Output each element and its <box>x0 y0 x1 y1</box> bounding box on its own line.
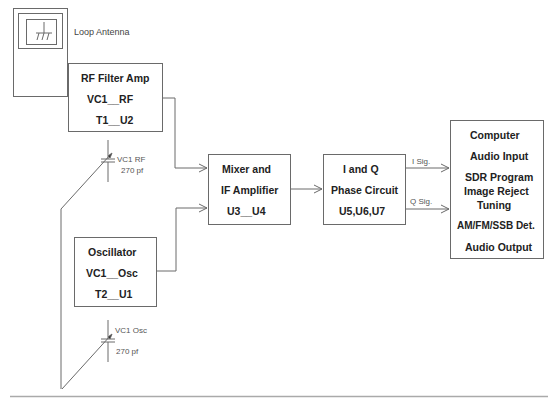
osc-cap: VC1__Osc <box>86 267 138 279</box>
computer-detector: AM/FM/SSB Det. <box>457 220 535 231</box>
rf-filter-amp-block: RF Filter Amp VC1__RF T1__U2 <box>68 63 163 132</box>
rf-amp-cap: VC1__RF <box>87 93 133 105</box>
i-signal-label: I Sig. <box>412 157 430 166</box>
oscillator-block: Oscillator VC1__Osc T2__U1 <box>74 237 157 307</box>
osc-parts: T2__U1 <box>95 288 132 300</box>
q-signal-label: Q Sig. <box>410 197 432 206</box>
computer-audio-output: Audio Output <box>465 241 532 253</box>
iq-title: I and Q <box>343 163 379 175</box>
iq-parts: U5,U6,U7 <box>339 205 385 217</box>
rf-amp-parts: T1__U2 <box>96 114 133 126</box>
vc1-rf-value: 270 pf <box>121 166 143 175</box>
computer-tuning: Tuning <box>477 199 511 211</box>
computer-audio-input: Audio Input <box>470 150 528 162</box>
antenna-loop-frame <box>14 9 68 97</box>
antenna-label: Loop Antenna <box>74 27 130 37</box>
computer-title: Computer <box>470 129 520 141</box>
iq-subtitle: Phase Circuit <box>331 184 398 196</box>
computer-sdr-program: SDR Program <box>465 171 533 183</box>
mixer-subtitle: IF Amplifier <box>221 184 278 196</box>
vc1-rf-name: VC1 RF <box>117 155 145 164</box>
vc1-osc-value: 270 pf <box>116 347 138 356</box>
mixer-title: Mixer and <box>222 163 271 175</box>
mixer-if-block: Mixer and IF Amplifier U3__U4 <box>208 154 291 225</box>
vc1-osc-name: VC1 Osc <box>115 326 147 335</box>
computer-block: Computer Audio Input SDR Program Image R… <box>450 120 544 259</box>
osc-title: Oscillator <box>88 246 136 258</box>
computer-image-reject: Image Reject <box>464 185 529 197</box>
mixer-parts: U3__U4 <box>227 205 266 217</box>
iq-phase-block: I and Q Phase Circuit U5,U6,U7 <box>323 154 406 225</box>
rf-amp-title: RF Filter Amp <box>81 72 149 84</box>
